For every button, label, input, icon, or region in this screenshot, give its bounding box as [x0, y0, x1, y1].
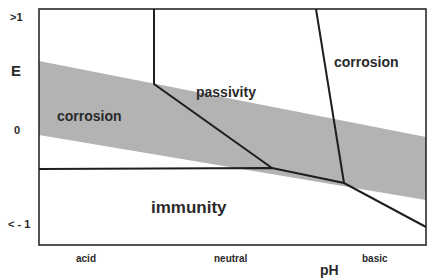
- x-axis-label: pH: [320, 262, 339, 278]
- x-category-basic: basic: [362, 253, 388, 264]
- y-tick-zero: 0: [14, 124, 20, 136]
- region-corrosion-basic: corrosion: [334, 54, 399, 70]
- y-tick-low: < - 1: [8, 218, 30, 230]
- region-passivity: passivity: [196, 84, 256, 100]
- region-corrosion-acid: corrosion: [57, 108, 122, 124]
- pourbaix-diagram: [0, 0, 433, 280]
- water-stability-band: [39, 61, 426, 200]
- x-category-neutral: neutral: [214, 253, 247, 264]
- y-axis-label: E: [11, 62, 21, 79]
- region-immunity: immunity: [151, 198, 227, 218]
- y-tick-high: >1: [10, 11, 23, 23]
- x-category-acid: acid: [76, 253, 96, 264]
